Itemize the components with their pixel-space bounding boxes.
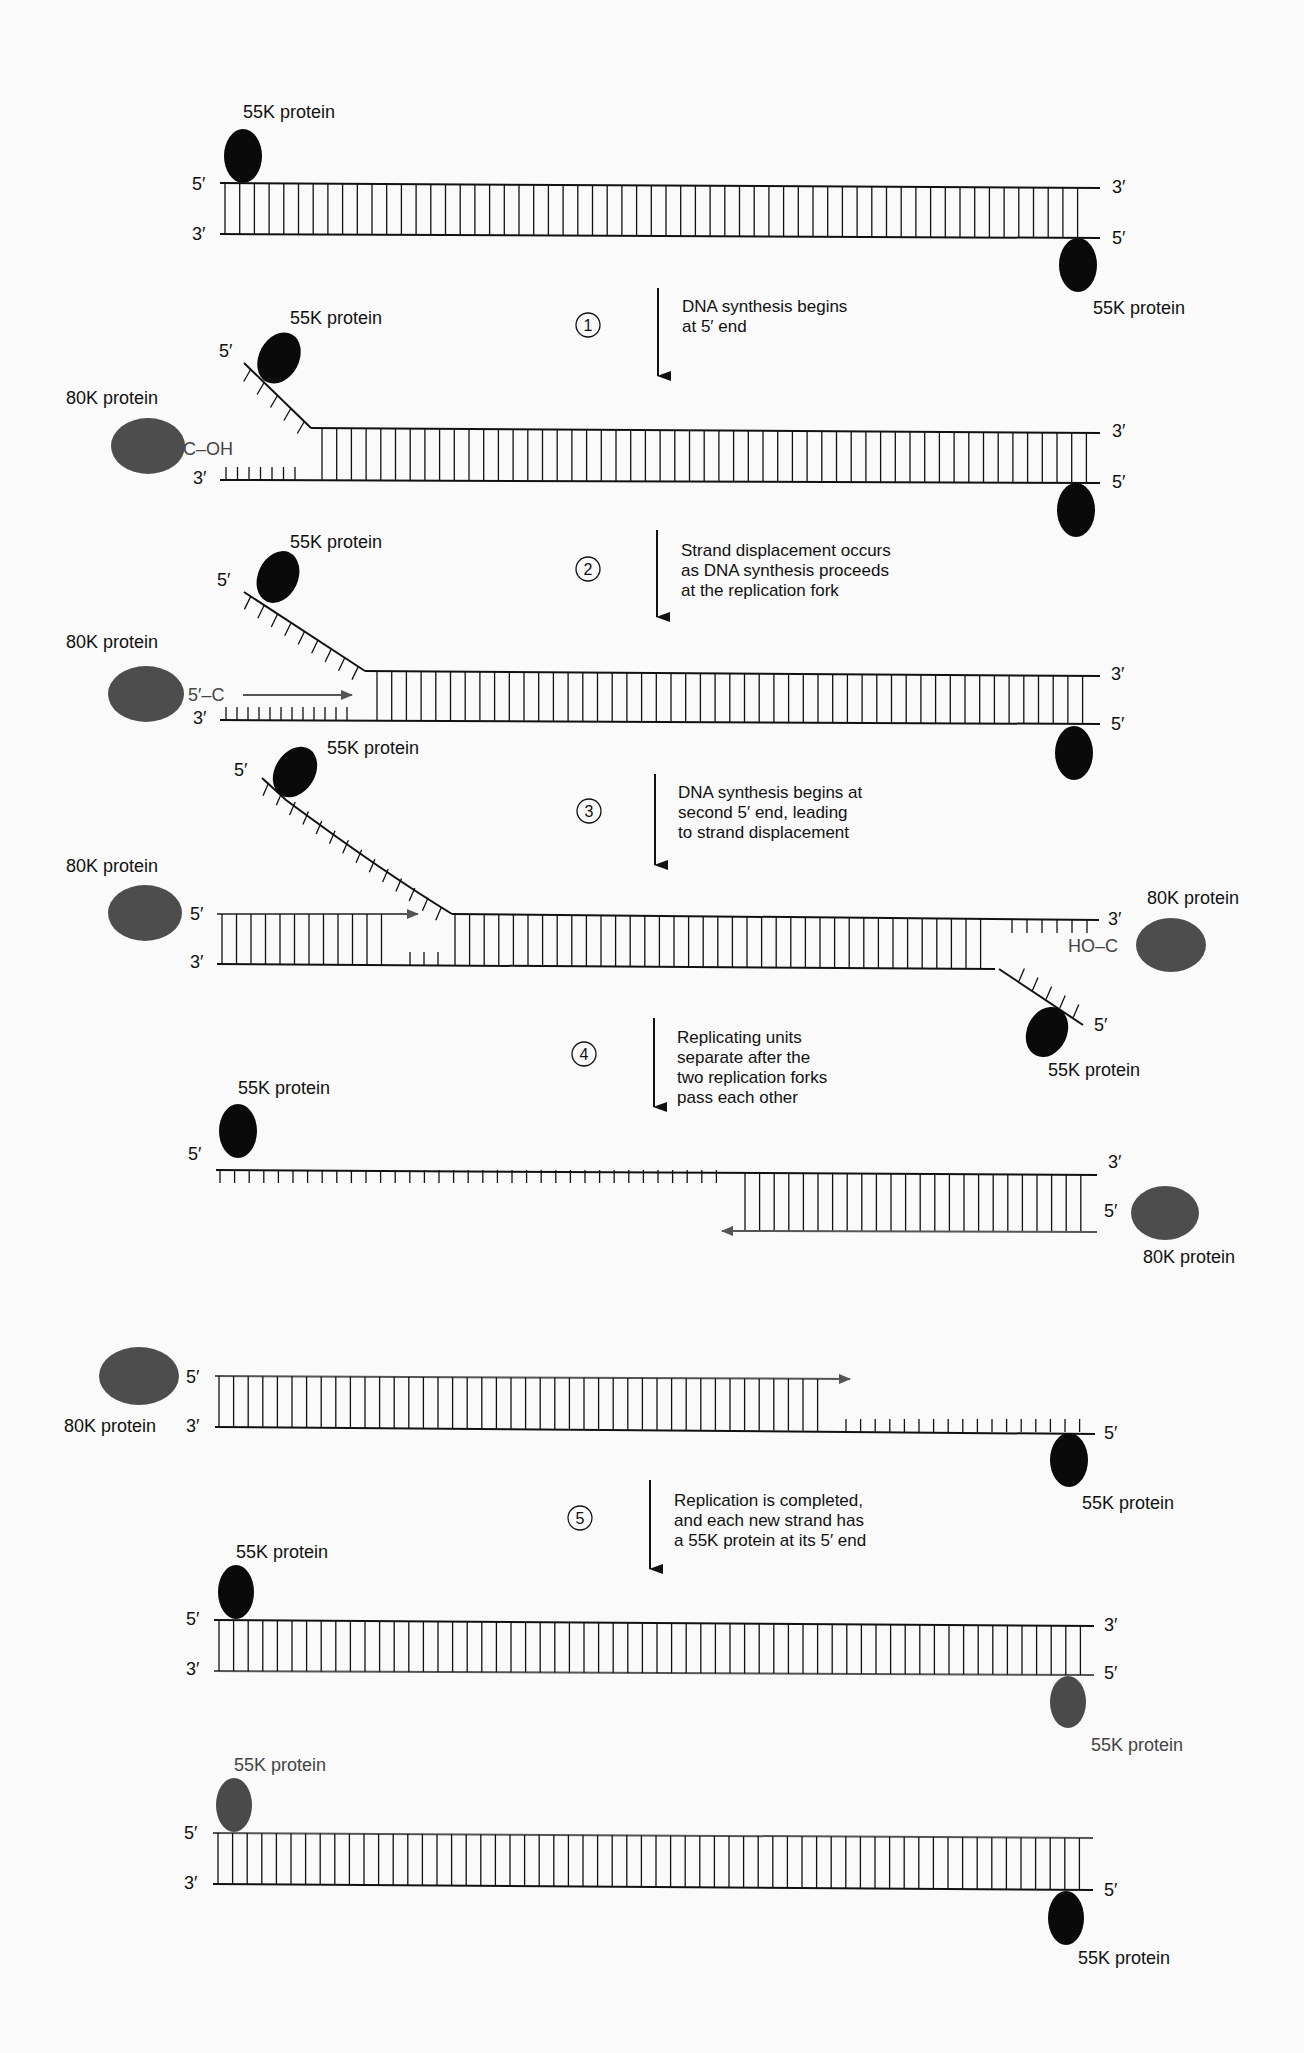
five-prime-label: 5′ <box>1104 1663 1118 1683</box>
protein-55k-icon <box>216 1778 252 1832</box>
protein-label-80k: 80K protein <box>66 632 158 652</box>
base-line <box>1019 969 1025 982</box>
base-line <box>271 396 278 408</box>
single-strand-bases <box>410 952 438 965</box>
protein-80k-icon <box>99 1347 179 1405</box>
base-line <box>257 383 264 395</box>
single-strand-bases <box>1012 920 1087 933</box>
three-prime-label: 3′ <box>1108 1152 1122 1172</box>
base-line <box>284 409 291 421</box>
three-prime-label: 3′ <box>1112 421 1126 441</box>
base-line <box>325 649 331 662</box>
protein-55k-icon <box>224 129 262 183</box>
five-prime-label: 5′ <box>186 1609 200 1629</box>
step-description-line: second 5′ end, leading <box>678 803 848 822</box>
protein-label-55k: 55K protein <box>290 532 382 552</box>
five-prime-label: 5′ <box>190 904 204 924</box>
three-prime-label: 3′ <box>186 1659 200 1679</box>
base-line <box>1032 978 1038 991</box>
five-prime-label: 5′ <box>184 1823 198 1843</box>
protein-55k-icon <box>1059 238 1097 292</box>
five-prime-label: 5′ <box>188 1144 202 1164</box>
base-pairs-new <box>222 914 382 965</box>
protein-label-55k: 55K protein <box>238 1078 330 1098</box>
step-3: 3 DNA synthesis begins at second 5′ end,… <box>577 774 863 865</box>
five-prime-label: 5′ <box>1104 1201 1118 1221</box>
base-pairs <box>745 1172 1081 1232</box>
three-prime-label: 3′ <box>1112 177 1126 197</box>
base-line <box>312 640 318 653</box>
five-prime-label: 5′ <box>1111 714 1125 734</box>
base-line <box>263 783 269 796</box>
stage-after-step-3: 55K protein 5′ 80K protein 5′ 3′ 3′ HO–C… <box>66 738 1239 1080</box>
five-prime-label: 5′ <box>192 174 206 194</box>
base-pairs <box>455 914 981 969</box>
base-line <box>298 632 304 645</box>
protein-label-55k: 55K protein <box>1093 298 1185 318</box>
step-description-line: at the replication fork <box>681 581 839 600</box>
base-line <box>1073 1005 1079 1018</box>
stage-after-step-2: 55K protein 5′ 80K protein 5′–C 3′ 3′ 5′ <box>66 532 1125 780</box>
step-number: 1 <box>584 317 593 334</box>
step-number: 4 <box>580 1046 589 1063</box>
bottom-strand <box>220 720 1100 724</box>
step-1: 1 DNA synthesis begins at 5′ end <box>576 288 847 376</box>
top-strand <box>452 914 1099 920</box>
five-prime-label: 5′ <box>1104 1880 1118 1900</box>
protein-label-55k: 55K protein <box>290 308 382 328</box>
step-description-line: pass each other <box>677 1088 798 1107</box>
three-prime-label: 3′ <box>192 224 206 244</box>
stage-after-step-1: 55K protein 5′ 80K protein C–OH 3′ 3′ 5′ <box>66 308 1126 537</box>
base-line <box>244 596 250 609</box>
single-strand-bases <box>244 596 358 679</box>
top-strand <box>213 1833 1093 1838</box>
base-pairs <box>218 1833 1079 1890</box>
protein-55k-icon <box>1050 1676 1086 1728</box>
bottom-strand <box>213 1884 1093 1890</box>
step-number: 3 <box>585 803 594 820</box>
bottom-strand <box>214 1671 1094 1675</box>
template-strand <box>216 1170 1097 1175</box>
three-prime-label: 3′ <box>1111 664 1125 684</box>
bottom-strand <box>220 234 1100 238</box>
five-prime-label: 5′ <box>1112 472 1126 492</box>
five-prime-label: 5′ <box>1112 228 1126 248</box>
single-strand-bases <box>226 467 295 480</box>
five-prime-label: 5′ <box>219 341 233 361</box>
step-description-line: as DNA synthesis proceeds <box>681 561 889 580</box>
base-pairs <box>322 428 1086 483</box>
step-description-line: separate after the <box>677 1048 810 1067</box>
protein-label-55k: 55K protein <box>243 102 335 122</box>
top-strand <box>311 428 1100 433</box>
three-prime-label: 3′ <box>184 1873 198 1893</box>
stage-initial: 55K protein 5′ 3′ 3′ 5′ 55K protein <box>192 102 1185 318</box>
five-prime-label: 5′ <box>1094 1015 1108 1035</box>
top-strand <box>220 183 1100 188</box>
stage-final-a: 55K protein 5′ 3′ 3′ 5′ 55K protein <box>186 1542 1183 1755</box>
top-strand <box>365 671 1100 676</box>
step-description-line: a 55K protein at its 5′ end <box>674 1531 866 1550</box>
step-description-line: Replicating units <box>677 1028 802 1047</box>
protein-55k-icon <box>1057 483 1095 537</box>
protein-80k-icon <box>1131 1186 1199 1240</box>
step-4: 4 Replicating units separate after the t… <box>572 1018 827 1107</box>
base-pairs <box>219 1376 818 1431</box>
base-line <box>285 623 291 636</box>
base-pairs <box>377 671 1083 724</box>
step-description-line: and each new strand has <box>674 1511 864 1530</box>
protein-label-80k: 80K protein <box>66 856 158 876</box>
protein-label-55k: 55K protein <box>234 1755 326 1775</box>
step-number: 2 <box>584 561 593 578</box>
base-line <box>271 614 277 627</box>
step-5: 5 Replication is completed, and each new… <box>568 1480 866 1569</box>
base-line <box>352 667 358 680</box>
three-prime-label: 3′ <box>193 708 207 728</box>
five-prime-label: 5′ <box>1104 1423 1118 1443</box>
five-prime-label: 5′ <box>186 1367 200 1387</box>
protein-80k-icon <box>111 418 185 474</box>
stage-after-step-4-unit-b: 80K protein 5′ 3′ 5′ 55K protein <box>64 1347 1174 1513</box>
protein-55k-icon <box>219 1104 257 1158</box>
protein-80k-icon <box>1136 918 1206 972</box>
base-line <box>436 907 442 920</box>
protein-55k-icon <box>1050 1433 1088 1487</box>
